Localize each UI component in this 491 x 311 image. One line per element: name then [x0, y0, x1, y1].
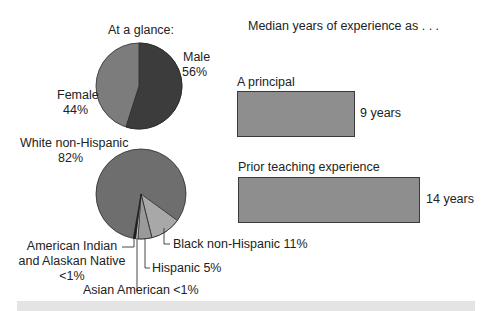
hispanic-label: Hispanic 5% — [152, 261, 221, 276]
white-value: 82% — [58, 151, 83, 166]
leader-hispanic — [145, 238, 150, 268]
black-label: Black non-Hispanic 11% — [173, 237, 308, 252]
asian-label: Asian American <1% — [83, 283, 199, 298]
male-label: Male — [183, 50, 210, 65]
bar-label-teaching: Prior teaching experience — [238, 160, 380, 175]
female-value: 44% — [63, 103, 88, 118]
american-indian-label-1: American Indian — [22, 239, 122, 254]
american-indian-label-2: and Alaskan Native — [17, 254, 127, 269]
bar-value-teaching: 14 years — [426, 192, 474, 207]
leader-american-indian — [122, 238, 134, 247]
race-pie — [96, 149, 186, 239]
gender-pie — [96, 43, 182, 129]
american-indian-label-3: <1% — [22, 269, 122, 284]
bar-teaching — [238, 177, 420, 223]
white-label: White non-Hispanic — [20, 136, 128, 151]
bar-principal — [237, 91, 355, 137]
female-label: Female — [57, 88, 99, 103]
bar-label-principal: A principal — [237, 75, 295, 90]
bar-value-principal: 9 years — [360, 106, 401, 121]
right-title: Median years of experience as . . . — [248, 19, 439, 34]
male-value: 56% — [182, 65, 207, 80]
bottom-band — [17, 301, 475, 311]
